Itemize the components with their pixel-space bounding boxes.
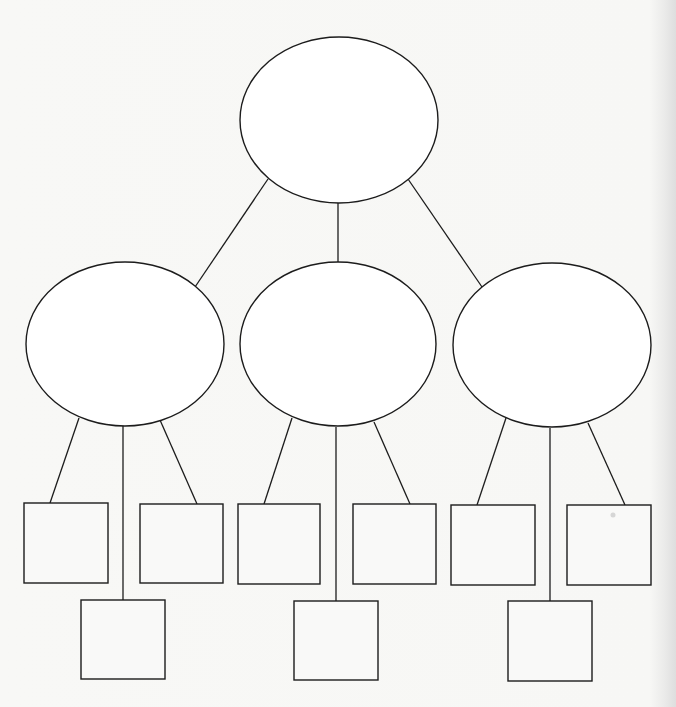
tree-diagram bbox=[0, 0, 676, 707]
branch-node-ellipse-left bbox=[26, 262, 224, 426]
connector-center-to-leaf-2 bbox=[374, 422, 410, 504]
connector-root-to-left bbox=[195, 179, 268, 287]
leaf-box-center-2 bbox=[353, 504, 436, 584]
connector-right-to-leaf-1 bbox=[477, 418, 506, 505]
root-node-ellipse bbox=[240, 37, 438, 203]
connector-right-to-leaf-2 bbox=[588, 423, 625, 505]
connector-left-to-leaf-1 bbox=[50, 418, 79, 503]
leaf-box-right-2 bbox=[567, 505, 651, 585]
leaf-box-right-3 bbox=[508, 601, 592, 681]
ink-speck bbox=[611, 513, 616, 518]
connector-left-to-leaf-2 bbox=[160, 420, 197, 504]
leaf-box-center-3 bbox=[294, 601, 378, 680]
scan-artifacts bbox=[611, 513, 616, 518]
diagram-nodes bbox=[24, 37, 651, 681]
branch-node-ellipse-center bbox=[240, 262, 436, 426]
branch-node-ellipse-right bbox=[453, 263, 651, 427]
leaf-box-left-2 bbox=[140, 504, 223, 583]
worksheet-page bbox=[0, 0, 676, 707]
connector-root-to-right bbox=[408, 179, 482, 287]
leaf-box-right-1 bbox=[451, 505, 535, 585]
connector-center-to-leaf-1 bbox=[264, 418, 292, 504]
leaf-box-center-1 bbox=[238, 504, 320, 584]
leaf-box-left-3 bbox=[81, 600, 165, 679]
leaf-box-left-1 bbox=[24, 503, 108, 583]
